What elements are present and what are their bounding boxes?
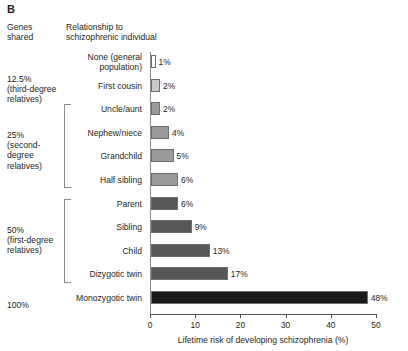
category-label: Parent [10, 199, 146, 209]
bar [151, 55, 156, 68]
bar-value-label: 1% [159, 57, 171, 67]
bar [151, 197, 178, 210]
bar-value-label: 2% [163, 104, 175, 114]
plot-area: 01020304050 1%2%2%4%5%6%6%9%13%17%48% [150, 52, 376, 314]
x-tick [376, 314, 377, 318]
bar [151, 126, 169, 139]
category-label: None (generalpopulation) [10, 52, 146, 72]
bar-value-label: 2% [163, 81, 175, 91]
bar-value-label: 6% [181, 175, 193, 185]
bar [151, 79, 160, 92]
x-tick-label: 10 [191, 320, 200, 330]
bar-value-label: 4% [172, 128, 184, 138]
category-label-line: Dizygotic twin [10, 269, 142, 279]
category-label-line: None (general [10, 52, 142, 62]
bar [151, 149, 174, 162]
category-label: Monozygotic twin [10, 293, 146, 303]
category-label: Half sibling [10, 175, 146, 185]
category-label-line: Child [10, 246, 142, 256]
category-label-line: Monozygotic twin [10, 293, 142, 303]
category-label-line: population) [10, 62, 142, 72]
x-tick [286, 314, 287, 318]
bar-value-label: 9% [195, 222, 207, 232]
category-label-line: Parent [10, 199, 142, 209]
category-label: Nephew/niece [10, 128, 146, 138]
column-header-relationship: Relationship to schizophrenic individual [66, 22, 157, 43]
category-label: Sibling [10, 222, 146, 232]
bar-value-label: 6% [181, 199, 193, 209]
x-tick-label: 30 [281, 320, 290, 330]
group-label-third-degree-line3: relatives) [7, 94, 65, 104]
column-header-relationship-line1: Relationship to [66, 22, 157, 32]
x-axis-line [150, 314, 376, 315]
column-header-genes-shared-line2: shared [7, 32, 33, 42]
bar [151, 267, 228, 280]
x-tick [240, 314, 241, 318]
category-label: Uncle/aunt [10, 104, 146, 114]
x-axis-title: Lifetime risk of developing schizophreni… [150, 335, 376, 345]
x-tick-label: 50 [371, 320, 380, 330]
column-header-genes-shared: Genes shared [7, 22, 33, 43]
group-label-first-degree-line2: (first-degree [7, 235, 65, 245]
bar-value-label: 48% [371, 293, 388, 303]
group-label-second-degree-line3: relatives) [7, 161, 65, 171]
bar [151, 102, 160, 115]
x-tick-label: 40 [326, 320, 335, 330]
figure-panel-b: B Genes shared Relationship to schizophr… [0, 0, 408, 351]
bar [151, 291, 368, 304]
bar-value-label: 5% [177, 151, 189, 161]
category-label: Child [10, 246, 146, 256]
column-header-relationship-line2: schizophrenic individual [66, 32, 157, 42]
bar-value-label: 13% [213, 246, 230, 256]
category-label-line: Uncle/aunt [10, 104, 142, 114]
category-label-line: Sibling [10, 222, 142, 232]
bar [151, 244, 210, 257]
category-label-line: Grandchild [10, 151, 142, 161]
x-tick-label: 20 [236, 320, 245, 330]
category-label: Dizygotic twin [10, 269, 146, 279]
category-label-line: Half sibling [10, 175, 142, 185]
column-header-genes-shared-line1: Genes [7, 22, 33, 32]
category-label-line: First cousin [10, 81, 142, 91]
x-tick [195, 314, 196, 318]
panel-letter: B [7, 3, 15, 15]
x-tick [331, 314, 332, 318]
category-label-line: Nephew/niece [10, 128, 142, 138]
x-tick [150, 314, 151, 318]
category-label: Grandchild [10, 151, 146, 161]
bar [151, 220, 192, 233]
x-tick-label: 0 [148, 320, 153, 330]
category-label: First cousin [10, 81, 146, 91]
bar [151, 173, 178, 186]
bar-value-label: 17% [231, 269, 248, 279]
